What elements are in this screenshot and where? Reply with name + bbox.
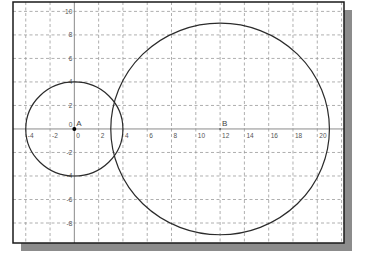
y-tick-label: 2 — [69, 102, 73, 109]
x-tick-label: 0 — [76, 132, 80, 139]
x-tick-label: 4 — [125, 132, 129, 139]
y-tick-label: -2 — [67, 149, 73, 156]
x-tick-label: 2 — [101, 132, 105, 139]
x-tick-label: -2 — [52, 132, 58, 139]
point-b-marker — [219, 128, 221, 130]
x-tick-label: 14 — [246, 132, 254, 139]
y-tick-label: 10 — [65, 8, 73, 15]
x-tick-label: 12 — [222, 132, 230, 139]
x-tick-label: -4 — [28, 132, 34, 139]
x-tick-label: 16 — [271, 132, 279, 139]
geometry-canvas: -4-2024681012141618201086420-2-4-6-8 AB — [0, 0, 366, 261]
y-tick-label: -6 — [67, 196, 73, 203]
x-tick-label: 20 — [319, 132, 327, 139]
point-label-a: A — [76, 119, 82, 128]
y-tick-label: 8 — [69, 31, 73, 38]
x-tick-label: 10 — [198, 132, 206, 139]
x-tick-label: 6 — [149, 132, 153, 139]
x-tick-label: 18 — [295, 132, 303, 139]
y-tick-label: 0 — [69, 121, 73, 128]
y-tick-label: 6 — [69, 55, 73, 62]
y-tick-label: -8 — [67, 220, 73, 227]
x-tick-label: 8 — [174, 132, 178, 139]
point-label-b: B — [222, 119, 227, 128]
